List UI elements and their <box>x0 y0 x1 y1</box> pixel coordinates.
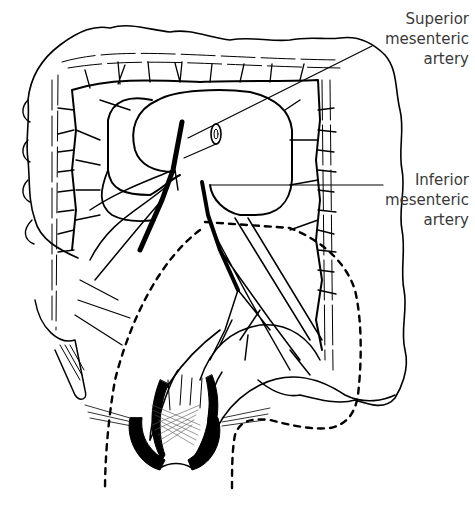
vasa-recta-left <box>58 108 74 252</box>
vasa-recta-top <box>85 62 304 88</box>
ima-branches <box>210 235 310 375</box>
label-superior-mesenteric-artery: Superior mesenteric artery <box>385 9 469 69</box>
label-line: mesenteric <box>385 29 469 49</box>
aorta-lumen <box>214 129 218 139</box>
inferior-mesenteric-artery-trunk <box>202 182 238 290</box>
taenia-left <box>52 75 58 330</box>
superior-mesenteric-artery-trunk <box>140 122 182 250</box>
anal-canal-opening <box>160 464 192 469</box>
leader-line-superior <box>216 46 372 124</box>
label-line: Inferior <box>385 170 469 190</box>
stomach-pancreas-block <box>133 90 292 215</box>
marginal-artery <box>72 80 322 350</box>
taenia-top <box>62 53 340 68</box>
label-line: Superior <box>385 9 469 29</box>
label-line: artery <box>385 49 469 69</box>
taenia-right <box>322 80 333 370</box>
label-line: artery <box>385 210 469 230</box>
aorta-cut-end <box>211 124 221 144</box>
levator-fibres-right <box>222 408 270 426</box>
caecum <box>35 300 86 399</box>
ileum-lines <box>75 280 130 345</box>
arcade-branches <box>76 100 318 230</box>
label-inferior-mesenteric-artery: Inferior mesenteric artery <box>385 170 469 230</box>
colon-mesenteric-diagram <box>0 0 475 509</box>
appendix-mesentery <box>60 345 84 380</box>
label-line: mesenteric <box>385 190 469 210</box>
